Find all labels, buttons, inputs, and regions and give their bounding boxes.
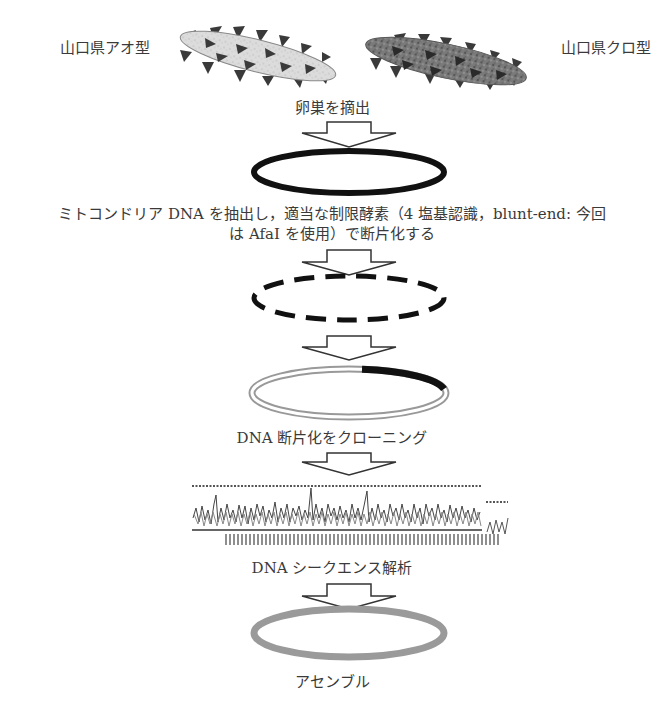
down-arrow-icon bbox=[302, 250, 396, 275]
sea-cucumber-kuro-icon bbox=[362, 27, 529, 94]
mtdna-ring-solid bbox=[254, 151, 444, 193]
step-label-extract-line2: は AfaI を使用）で断片化する bbox=[0, 222, 664, 243]
source-label-kuro: 山口県クロ型 bbox=[561, 36, 651, 57]
step-label-sequencing: DNA シークエンス解析 bbox=[0, 556, 664, 577]
step-label-extract-line1: ミトコンドリア DNA を抽出し，適当な制限酵素（4 塩基認識，blunt-en… bbox=[0, 202, 664, 223]
down-arrow-icon bbox=[302, 122, 396, 147]
down-arrow-icon bbox=[302, 453, 396, 475]
assembled-mtdna-ring bbox=[254, 609, 444, 657]
sequence-chromatogram bbox=[192, 486, 508, 545]
down-arrow-icon bbox=[302, 336, 396, 360]
down-arrow-icon bbox=[302, 584, 396, 609]
cloning-vector-ring bbox=[252, 369, 446, 417]
mtdna-ring-fragmented bbox=[254, 276, 444, 320]
step-label-ovary: 卵巣を摘出 bbox=[0, 96, 664, 117]
sea-cucumber-ao-icon bbox=[177, 21, 340, 91]
step-label-cloning: DNA 断片化をクローニング bbox=[0, 426, 664, 447]
step-label-assembly: アセンブル bbox=[0, 670, 664, 691]
source-label-ao: 山口県アオ型 bbox=[60, 36, 150, 57]
